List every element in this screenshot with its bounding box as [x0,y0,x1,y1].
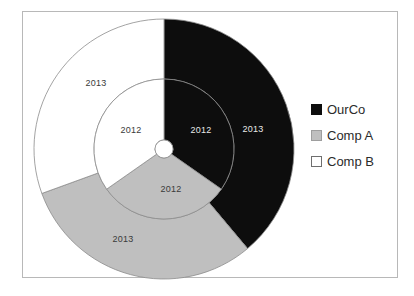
data-label-inner-compb: 2012 [121,125,142,135]
legend-label-ourco: OurCo [327,102,365,117]
data-label-inner-ourco: 2012 [191,125,212,135]
data-label-outer-compa: 2013 [113,234,134,244]
doughnut-hole [155,140,173,158]
plot-area: 201320132013201220122012 OurCo Comp A Co… [23,12,399,279]
legend-item-ourco[interactable]: OurCo [311,97,399,121]
legend-swatch-comp-a [311,130,322,141]
chart-legend: OurCo Comp A Comp B [311,97,399,175]
legend-swatch-ourco [311,104,322,115]
legend-label-comp-b: Comp B [327,154,374,169]
legend-item-comp-b[interactable]: Comp B [311,149,399,173]
legend-item-comp-a[interactable]: Comp A [311,123,399,147]
data-label-inner-compa: 2012 [161,184,182,194]
legend-label-comp-a: Comp A [327,128,373,143]
legend-swatch-comp-b [311,156,322,167]
data-label-outer-compb: 2013 [86,78,107,88]
data-label-outer-ourco: 2013 [243,124,264,134]
chart-frame: 201320132013201220122012 OurCo Comp A Co… [22,11,398,278]
